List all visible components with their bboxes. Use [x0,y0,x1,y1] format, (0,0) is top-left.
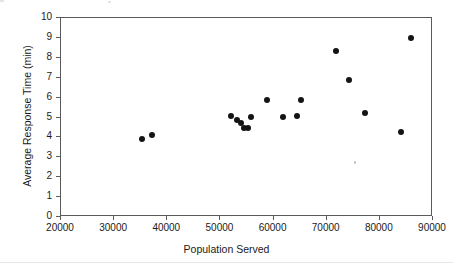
data-point [294,113,300,119]
y-tick [56,176,60,177]
y-tick-label: 0 [12,211,52,221]
x-tick [113,216,114,220]
y-tick [56,117,60,118]
data-point [228,113,234,119]
x-tick [60,216,61,220]
x-tick-label: 40000 [136,223,196,233]
x-tick-label: 30000 [83,223,143,233]
scan-fleck [354,161,356,164]
scatter-plot-figure: 012345678910 200003000040000500006000070… [0,0,453,266]
y-tick [56,57,60,58]
y-tick [56,156,60,157]
x-tick-label: 50000 [189,223,249,233]
scan-artifact [0,0,4,2]
y-tick [56,77,60,78]
y-tick [56,136,60,137]
y-tick [56,37,60,38]
data-point [333,48,339,54]
data-point [264,97,270,103]
data-point [408,35,414,41]
x-tick-label: 20000 [30,223,90,233]
data-point [298,97,304,103]
x-tick [219,216,220,220]
x-tick [432,216,433,220]
plot-area [60,17,432,216]
x-tick [379,216,380,220]
x-tick-label: 60000 [243,223,303,233]
x-tick-label: 70000 [296,223,356,233]
scan-artifact [0,262,453,263]
x-tick [273,216,274,220]
y-tick [56,97,60,98]
y-axis-label: Average Response Time (min) [21,26,33,206]
data-point [346,77,352,83]
data-point [362,110,368,116]
y-tick [56,17,60,18]
x-tick [166,216,167,220]
scan-artifact [108,1,111,3]
x-tick [326,216,327,220]
y-tick-label: 10 [12,12,52,22]
x-axis-label: Population Served [0,243,453,255]
y-tick [56,196,60,197]
x-tick-label: 80000 [349,223,409,233]
x-tick-label: 90000 [402,223,453,233]
